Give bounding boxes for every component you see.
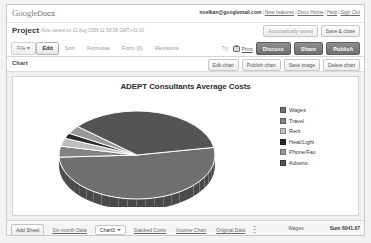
- app-root: GoogleDocs noelkan@googlemail.com|New fe…: [0, 0, 371, 243]
- chart-canvas[interactable]: ADEPT Consultants Average Costs WagesTra…: [12, 76, 359, 216]
- menu-bar: File ▾ Edit Sort Formulas Form (0) Revis…: [7, 40, 364, 57]
- status-area: Wages Sum 6041.67: [288, 225, 360, 231]
- save-and-close-button[interactable]: Save & close: [321, 25, 360, 37]
- chevron-down-icon[interactable]: [117, 229, 121, 231]
- discuss-button[interactable]: Discuss: [256, 42, 291, 55]
- chart-action-bar: Chart Edit chart Publish chart Save imag…: [7, 57, 364, 72]
- menu-sort[interactable]: Sort: [59, 42, 81, 55]
- sheet-tab-label: Stacked Costs: [134, 227, 166, 233]
- chart-title: ADEPT Consultants Average Costs: [13, 82, 358, 91]
- legend-label: Adverts: [289, 160, 308, 166]
- sheet-tab-label: Original Data: [216, 227, 245, 233]
- page-title[interactable]: Project: [12, 26, 39, 35]
- legend-label: Wages: [289, 107, 306, 113]
- legend-item: Phone/Fax: [280, 147, 352, 158]
- legend-swatch: [280, 118, 286, 124]
- legend-item: Wages: [280, 105, 352, 116]
- logo-google-text: Google: [12, 8, 37, 18]
- menu-items: File ▾ Edit Sort Formulas Form (0) Revis…: [11, 42, 185, 55]
- menu-form[interactable]: Form (0): [116, 42, 149, 55]
- legend-swatch: [280, 139, 286, 145]
- menu-file[interactable]: File ▾: [11, 42, 36, 55]
- legend-item: Adverts: [280, 158, 352, 169]
- chart-bar-label: Chart: [12, 60, 28, 66]
- chart-canvas-area: ADEPT Consultants Average Costs WagesTra…: [7, 72, 364, 220]
- status-series-name: Wages: [288, 225, 303, 231]
- resize-grip[interactable]: [253, 226, 256, 233]
- legend-label: Travel: [289, 118, 304, 124]
- document-title-bar: Project Auto-saved on 11 Aug 2009 11:58:…: [7, 23, 364, 40]
- autosave-timestamp: Auto-saved on 11 Aug 2009 11:58:38 GMT+0…: [41, 28, 144, 33]
- account-email: noelkan@googlemail.com: [200, 9, 262, 15]
- share-button[interactable]: Share: [294, 42, 323, 55]
- sheet-tab[interactable]: Income Chart: [174, 226, 208, 234]
- edit-chart-button[interactable]: Edit chart: [208, 59, 239, 71]
- sheet-tab-label: Six-month Data: [52, 227, 86, 233]
- chart-legend: WagesTravelRentHeat/LightPhone/FaxAdvert…: [280, 105, 352, 168]
- pie-chart: [17, 95, 257, 207]
- sheet-tab-label: Chart3: [100, 227, 115, 233]
- link-new-features[interactable]: New features: [265, 9, 294, 15]
- legend-item: Heat/Light: [280, 137, 352, 148]
- save-image-button[interactable]: Save image: [284, 59, 320, 71]
- legend-item: Travel: [280, 116, 352, 127]
- add-sheet-button[interactable]: Add Sheet: [11, 224, 44, 236]
- menu-edit[interactable]: Edit: [36, 42, 58, 55]
- status-sum: Sum 6041.67: [330, 225, 360, 231]
- header-bar: GoogleDocs noelkan@googlemail.com|New fe…: [7, 5, 364, 23]
- delete-chart-button[interactable]: Delete chart: [323, 59, 360, 71]
- publish-button[interactable]: Publish: [326, 42, 360, 55]
- legend-swatch: [280, 128, 286, 134]
- pie-slice-side: [137, 199, 146, 207]
- account-area: noelkan@googlemail.com|New features|Docs…: [200, 9, 360, 15]
- publish-chart-button[interactable]: Publish chart: [242, 59, 281, 71]
- link-help[interactable]: Help: [327, 9, 337, 15]
- print-button[interactable]: Print: [233, 46, 253, 52]
- link-sign-out[interactable]: Sign Out: [341, 9, 360, 15]
- legend-label: Phone/Fax: [289, 149, 316, 155]
- legend-label: Heat/Light: [289, 139, 314, 145]
- document-actions: Automatically saved Save & close: [263, 25, 360, 37]
- printer-icon: [233, 46, 240, 52]
- sheet-tab[interactable]: Original Data: [214, 226, 247, 234]
- sheet-tab[interactable]: Stacked Costs: [132, 226, 168, 234]
- legend-label: Rent: [289, 128, 301, 134]
- pie-slice-side: [128, 199, 137, 207]
- pie-chart-svg: [17, 95, 257, 207]
- sheet-tabs: Add Sheet Six-month DataChart3Stacked Co…: [11, 224, 247, 236]
- legend-item: Rent: [280, 126, 352, 137]
- sheet-tab[interactable]: Six-month Data: [50, 226, 88, 234]
- google-docs-logo[interactable]: GoogleDocs: [12, 8, 55, 18]
- menu-revisions[interactable]: Revisions: [149, 42, 185, 55]
- legend-swatch: [280, 160, 286, 166]
- menu-formulas[interactable]: Formulas: [81, 42, 116, 55]
- chart-action-buttons: Edit chart Publish chart Save image Dele…: [208, 59, 360, 71]
- print-label: Print: [241, 46, 252, 52]
- legend-swatch: [280, 107, 286, 113]
- browser-frame: GoogleDocs noelkan@googlemail.com|New fe…: [6, 4, 365, 236]
- sheet-tab[interactable]: Chart3: [95, 225, 126, 235]
- pie-slice-side: [146, 198, 155, 207]
- menu-bar-actions: Tip Print Discuss Share Publish: [222, 42, 360, 55]
- menu-hint-label: Tip: [222, 46, 228, 51]
- sheet-tab-bar: Add Sheet Six-month DataChart3Stacked Co…: [7, 220, 364, 236]
- automatically-saved-button[interactable]: Automatically saved: [263, 25, 317, 37]
- logo-docs-text: Docs: [37, 9, 54, 18]
- sheet-tab-label: Income Chart: [176, 227, 206, 233]
- legend-swatch: [280, 149, 286, 155]
- link-docs-home[interactable]: Docs Home: [297, 9, 323, 15]
